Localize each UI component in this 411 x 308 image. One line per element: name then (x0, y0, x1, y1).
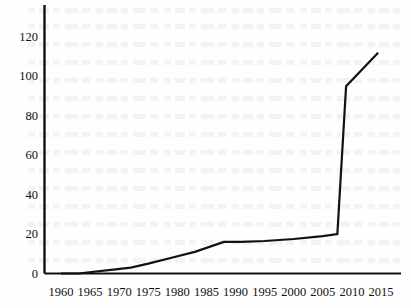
chart-plot-area (0, 0, 411, 308)
x-tick-label: 2000 (281, 286, 306, 299)
x-tick-label: 1965 (78, 286, 103, 299)
x-tick-label: 1970 (107, 286, 132, 299)
chart-figure: 020406080100120 196019651970197519801985… (0, 0, 411, 308)
x-tick-label: 2005 (310, 286, 335, 299)
x-tick-label: 1975 (136, 286, 161, 299)
y-tick-label: 20 (4, 228, 38, 241)
x-tick-label: 2015 (369, 286, 394, 299)
x-tick-label: 1990 (223, 286, 248, 299)
series-line-1 (61, 53, 378, 274)
y-tick-label: 0 (4, 267, 38, 280)
data-series-group (61, 53, 378, 274)
y-tick-label: 40 (4, 188, 38, 201)
x-tick-label: 1985 (194, 286, 219, 299)
x-tick-label: 1980 (165, 286, 190, 299)
axis-spines (45, 5, 402, 274)
x-tick-label: 2010 (339, 286, 364, 299)
y-tick-label: 120 (4, 31, 38, 44)
x-tick-label: 1995 (252, 286, 277, 299)
y-tick-label: 60 (4, 149, 38, 162)
y-tick-label: 100 (4, 70, 38, 83)
y-tick-label: 80 (4, 110, 38, 123)
x-tick-label: 1960 (49, 286, 74, 299)
